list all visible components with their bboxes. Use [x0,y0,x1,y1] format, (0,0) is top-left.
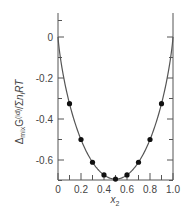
axes [58,13,173,180]
data-point [90,160,95,165]
data-points [67,101,164,182]
chart: 00.20.40.60.81.00-0.2-0.4-0.6 x2 ΔmixG(i… [0,0,192,221]
data-point [67,101,72,106]
data-point [101,172,106,177]
data-point [159,101,164,106]
curve-line [58,37,173,179]
data-point [147,137,152,142]
data-point [78,137,83,142]
x-tick-label: 1.0 [166,184,180,195]
x-tick-label: 0.2 [74,184,88,195]
y-tick-label: -0.2 [36,73,54,84]
x-tick-label: 0.6 [120,184,134,195]
y-tick-label: 0 [47,32,53,43]
data-point [136,160,141,165]
y-tick-label: -0.6 [36,155,54,166]
ticks [58,21,173,181]
x-axis-label: x2 [110,194,120,207]
y-tick-label: -0.4 [36,114,54,125]
data-point [124,172,129,177]
x-tick-label: 0.4 [97,184,111,195]
x-tick-label: 0 [55,184,61,195]
y-axis-label: ΔmixG(id)/ΣniRT [14,79,26,145]
data-point [113,176,118,181]
x-tick-label: 0.8 [143,184,157,195]
